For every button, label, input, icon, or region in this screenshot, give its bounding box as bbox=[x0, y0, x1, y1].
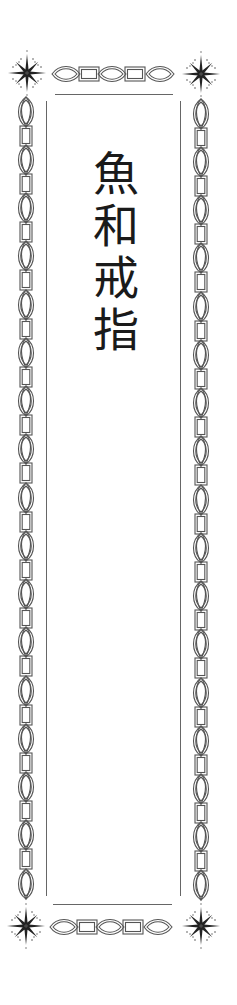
title-char-2: 和 bbox=[93, 200, 139, 252]
right-chain-border bbox=[194, 99, 209, 900]
title-char-3: 戒 bbox=[93, 252, 139, 304]
starburst-icon-bottom-left bbox=[3, 903, 48, 948]
starburst-icon-top-left bbox=[4, 50, 49, 95]
top-chain-border bbox=[52, 67, 174, 82]
title-char-4: 指 bbox=[93, 304, 139, 356]
left-chain-border bbox=[19, 97, 34, 899]
starburst-icon-bottom-right bbox=[178, 903, 223, 948]
title-char-1: 魚 bbox=[93, 148, 139, 200]
bottom-chain-border bbox=[50, 920, 172, 935]
vertical-title: 魚 和 戒 指 bbox=[80, 148, 152, 356]
starburst-icon-top-right bbox=[178, 51, 223, 96]
